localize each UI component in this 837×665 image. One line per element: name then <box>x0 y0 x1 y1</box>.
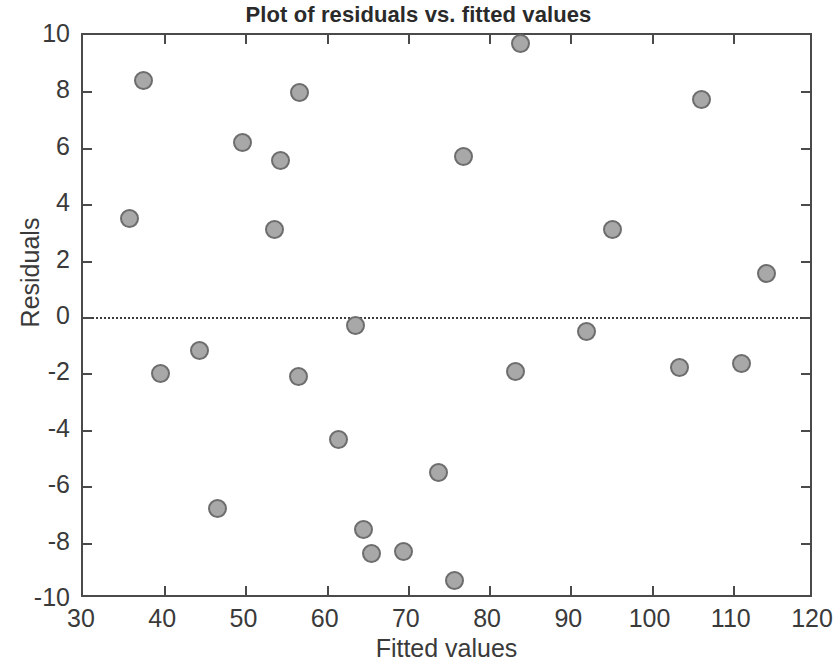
x-axis-tick-top <box>733 35 735 44</box>
y-axis-tick-label: -6 <box>48 470 70 499</box>
x-axis-tick <box>489 586 491 595</box>
y-axis-label: Residuals <box>16 143 45 403</box>
x-axis-tick-top <box>408 35 410 44</box>
y-axis-tick-label: 2 <box>56 244 70 273</box>
data-point-marker <box>506 362 525 381</box>
x-axis-tick-label: 110 <box>711 604 751 633</box>
plot-canvas <box>83 35 810 595</box>
data-point-marker <box>670 358 689 377</box>
residual-plot-figure: Plot of residuals vs. fitted values -10-… <box>0 0 837 665</box>
x-axis-tick <box>245 586 247 595</box>
x-axis-tick <box>408 586 410 595</box>
x-axis-label: Fitted values <box>81 634 812 663</box>
x-axis-tick-label: 100 <box>629 604 671 633</box>
x-axis-tick-label: 80 <box>473 604 501 633</box>
y-axis-tick-label: -4 <box>48 413 70 442</box>
y-axis-tick-label: 0 <box>56 301 70 330</box>
y-axis-tick <box>83 204 92 206</box>
x-axis-tick-top <box>327 35 329 44</box>
data-point-marker <box>757 264 776 283</box>
data-point-marker <box>190 341 209 360</box>
plot-area <box>81 33 812 597</box>
data-point-marker <box>511 34 530 53</box>
y-axis-tick-right <box>801 430 810 432</box>
data-point-marker <box>577 322 596 341</box>
y-axis-tick-right <box>801 373 810 375</box>
x-axis-tick-label: 70 <box>392 604 420 633</box>
y-axis-tick <box>83 486 92 488</box>
data-point-marker <box>289 367 308 386</box>
data-point-marker <box>362 544 381 563</box>
y-axis-tick-right <box>801 317 810 319</box>
y-axis-tick-label: -8 <box>48 526 70 555</box>
y-axis-tick-right <box>801 91 810 93</box>
data-point-marker <box>265 220 284 239</box>
data-point-marker <box>346 316 365 335</box>
y-axis-tick <box>83 261 92 263</box>
y-axis-tick <box>83 91 92 93</box>
x-axis-tick <box>652 586 654 595</box>
x-axis-tick-top <box>164 35 166 44</box>
chart-title: Plot of residuals vs. fitted values <box>0 2 837 28</box>
data-point-marker <box>290 83 309 102</box>
x-axis-tick-label: 90 <box>554 604 582 633</box>
y-axis-tick-right <box>801 148 810 150</box>
y-axis-tick-label: 10 <box>42 19 70 48</box>
data-point-marker <box>120 209 139 228</box>
y-axis-tick <box>83 430 92 432</box>
y-axis-tick-label: -2 <box>48 357 70 386</box>
x-axis-tick <box>327 586 329 595</box>
x-axis-tick <box>570 586 572 595</box>
y-axis-tick-label: 4 <box>56 188 70 217</box>
y-axis-tick <box>83 317 92 319</box>
data-point-marker <box>429 463 448 482</box>
data-point-marker <box>208 499 227 518</box>
x-axis-tick-label: 50 <box>230 604 258 633</box>
x-axis-tick <box>164 586 166 595</box>
x-axis-tick <box>733 586 735 595</box>
data-point-marker <box>329 430 348 449</box>
x-axis-tick-label: 60 <box>311 604 339 633</box>
data-point-marker <box>732 354 751 373</box>
y-axis-tick <box>83 148 92 150</box>
zero-residual-line <box>83 317 810 319</box>
x-axis-tick-label: 40 <box>148 604 176 633</box>
data-point-marker <box>394 542 413 561</box>
y-axis-tick <box>83 543 92 545</box>
x-axis-tick-top <box>245 35 247 44</box>
data-point-marker <box>454 147 473 166</box>
x-axis-tick-top <box>570 35 572 44</box>
data-point-marker <box>233 133 252 152</box>
y-axis-tick-label: -10 <box>34 583 70 612</box>
y-axis-tick-label: 8 <box>56 75 70 104</box>
y-axis-tick-right <box>801 204 810 206</box>
y-axis-tick-right <box>801 261 810 263</box>
data-point-marker <box>271 151 290 170</box>
data-point-marker <box>354 520 373 539</box>
data-point-marker <box>692 90 711 109</box>
y-axis-tick-right <box>801 486 810 488</box>
data-point-marker <box>151 364 170 383</box>
data-point-marker <box>445 571 464 590</box>
x-axis-tick-label: 30 <box>67 604 95 633</box>
x-axis-tick-top <box>489 35 491 44</box>
y-axis-tick <box>83 373 92 375</box>
data-point-marker <box>134 71 153 90</box>
y-axis-tick-right <box>801 543 810 545</box>
y-axis-tick-label: 6 <box>56 131 70 160</box>
data-point-marker <box>603 220 622 239</box>
x-axis-tick-label: 120 <box>791 604 833 633</box>
x-axis-tick-top <box>652 35 654 44</box>
